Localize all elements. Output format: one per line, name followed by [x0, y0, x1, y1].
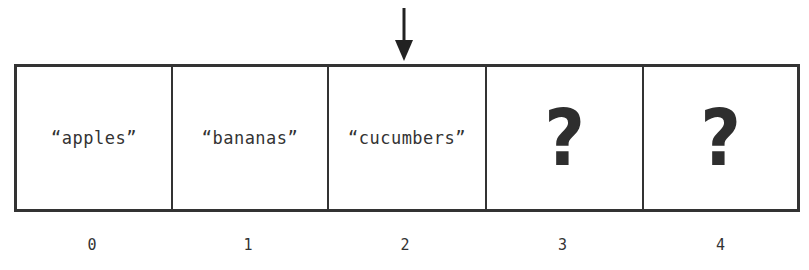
question-mark-icon: ? — [700, 99, 741, 177]
array-cell-0: “apples” — [17, 67, 173, 209]
array-cell-4: ? — [644, 67, 797, 209]
array-cell-2: “cucumbers” — [329, 67, 487, 209]
index-label-1: 1 — [170, 236, 326, 254]
question-mark-icon: ? — [544, 99, 585, 177]
index-label-0: 0 — [14, 236, 170, 254]
array-boxes: “apples” “bananas” “cucumbers” ? ? — [14, 64, 800, 212]
down-arrow-icon — [392, 8, 416, 62]
index-labels: 0 1 2 3 4 — [14, 236, 800, 254]
cell-value: “apples” — [51, 128, 137, 148]
index-label-2: 2 — [326, 236, 484, 254]
array-cell-3: ? — [487, 67, 644, 209]
array-cell-1: “bananas” — [173, 67, 329, 209]
cell-value: “cucumbers” — [348, 128, 466, 148]
index-label-4: 4 — [641, 236, 800, 254]
cell-value: “bananas” — [202, 128, 299, 148]
index-label-3: 3 — [484, 236, 641, 254]
